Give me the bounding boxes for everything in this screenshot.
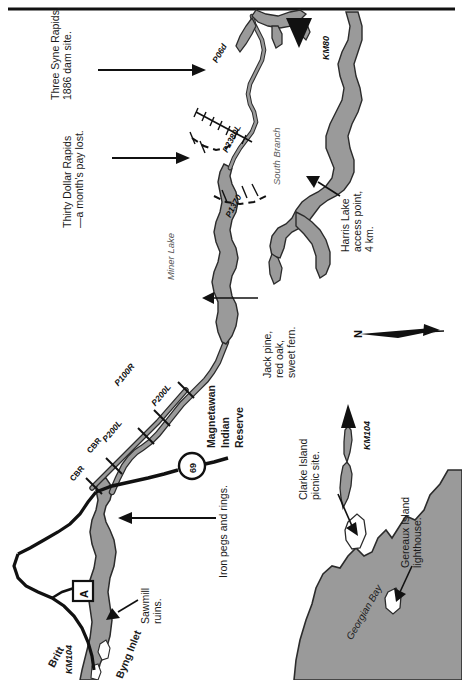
north-arrow-letter: N	[352, 330, 364, 338]
reserve-label-line2: Indian	[220, 417, 232, 448]
annotation-sawmill-ruins: Sawmill ruins.	[140, 588, 164, 624]
annotation-three-syne-rapids: Three Syne Rapids, 1886 dam site.	[50, 7, 74, 100]
km-marker-km104-upper: KM104	[362, 421, 372, 450]
portage-ticks-p2380l	[190, 132, 205, 153]
lower-river-channel-north	[344, 426, 352, 462]
access-point-letter: A	[78, 590, 90, 598]
annotation-jack-pine: Jack pine, red oak, sweet fern.	[262, 327, 297, 378]
canoe-route-map: Three Syne Rapids, 1886 dam site. Thirty…	[0, 0, 462, 680]
map-graphics-layer	[0, 0, 462, 680]
headwater-lake-branch-b	[272, 26, 282, 48]
reserve-label-line3: Reserve	[234, 407, 246, 448]
annotation-iron-pegs: Iron pegs and rings.	[218, 485, 230, 578]
north-arrow-graphic	[360, 324, 444, 338]
south-branch-east-arm	[296, 212, 330, 278]
annotation-clarke-island: Clarke Island picnic site.	[298, 439, 322, 500]
place-label-miner-lake: Miner Lake	[166, 233, 177, 280]
britt-access-road	[18, 492, 96, 554]
annotation-thirty-dollar-rapids: Thirty Dollar Rapids —a month's pay lost…	[62, 130, 86, 228]
railway-hatch-upper	[194, 108, 252, 144]
highway-69-number[interactable]: 69	[188, 463, 198, 473]
arrow-iron-pegs	[118, 512, 216, 524]
georgian-bay-water	[294, 470, 462, 680]
arrow-thirty-dollar-rapids	[112, 152, 190, 164]
miner-lake-water	[212, 164, 238, 344]
reserve-label-line1: Magnetawan	[206, 385, 218, 448]
arrow-three-syne-rapids	[98, 64, 206, 76]
km-marker-km80: KM80	[321, 36, 331, 60]
headwater-lake-branch-a	[236, 18, 256, 52]
annotation-harris-lake: Harris Lake access point, 4 km.	[340, 191, 375, 252]
place-label-south-branch: South Branch	[272, 127, 283, 185]
km-marker-km104-lower: KM104	[64, 645, 74, 674]
km104-lower-arrowhead	[341, 404, 356, 428]
annotation-gereaux-island: Gereaux Island lighthouse.	[400, 497, 424, 568]
